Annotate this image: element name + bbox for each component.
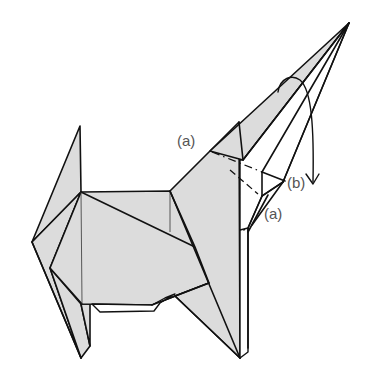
label-a-top: (a) — [177, 132, 195, 149]
origami-diagram: (a) (b) (a) — [0, 0, 369, 384]
label-b: (b) — [287, 174, 305, 191]
label-a-bottom: (a) — [264, 205, 282, 222]
